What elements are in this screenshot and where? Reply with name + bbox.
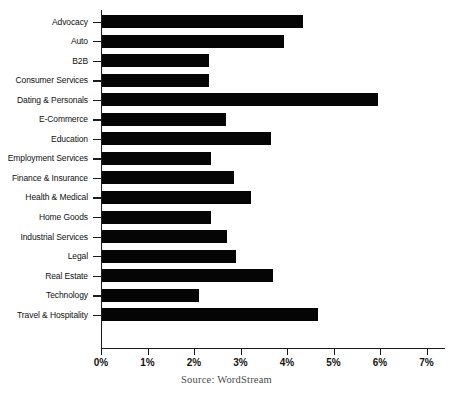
category-label: Consumer Services bbox=[0, 75, 88, 85]
x-axis-tick bbox=[334, 348, 335, 355]
bar bbox=[102, 113, 226, 126]
category-label: Industrial Services bbox=[0, 232, 88, 242]
y-axis-tick bbox=[93, 315, 101, 316]
category-label: Home Goods bbox=[0, 212, 88, 222]
x-axis-tick bbox=[101, 348, 102, 355]
y-axis-tick bbox=[93, 158, 101, 159]
x-axis-tick bbox=[148, 348, 149, 355]
x-axis-line bbox=[101, 348, 445, 349]
category-label: Travel & Hospitality bbox=[0, 310, 88, 320]
category-label: Education bbox=[0, 134, 88, 144]
bar bbox=[102, 171, 234, 184]
category-label: Dating & Personals bbox=[0, 95, 88, 105]
x-axis-tick bbox=[427, 348, 428, 355]
bar bbox=[102, 191, 251, 204]
x-axis-tick-label: 4% bbox=[267, 357, 307, 368]
bar bbox=[102, 132, 271, 145]
bar-chart: AdvocacyAutoB2BConsumer ServicesDating &… bbox=[0, 0, 453, 399]
category-label: B2B bbox=[0, 56, 88, 66]
category-label: Health & Medical bbox=[0, 192, 88, 202]
x-axis-tick bbox=[194, 348, 195, 355]
x-axis-tick bbox=[380, 348, 381, 355]
bar bbox=[102, 269, 273, 282]
bar bbox=[102, 35, 284, 48]
x-axis-tick-label: 2% bbox=[174, 357, 214, 368]
y-axis-tick bbox=[93, 139, 101, 140]
x-axis-tick-label: 1% bbox=[128, 357, 168, 368]
y-axis-tick bbox=[93, 80, 101, 81]
bar bbox=[102, 54, 209, 67]
category-label: Advocacy bbox=[0, 17, 88, 27]
y-axis-tick bbox=[93, 237, 101, 238]
bar bbox=[102, 152, 211, 165]
category-label: Legal bbox=[0, 251, 88, 261]
category-label: E-Commerce bbox=[0, 114, 88, 124]
category-label: Auto bbox=[0, 36, 88, 46]
y-axis-tick bbox=[93, 100, 101, 101]
y-axis-tick bbox=[93, 217, 101, 218]
category-label: Real Estate bbox=[0, 271, 88, 281]
category-label: Technology bbox=[0, 290, 88, 300]
y-axis-tick bbox=[93, 197, 101, 198]
bar bbox=[102, 250, 236, 263]
bar bbox=[102, 74, 209, 87]
y-axis-tick bbox=[93, 256, 101, 257]
y-axis-tick bbox=[93, 295, 101, 296]
category-label: Employment Services bbox=[0, 153, 88, 163]
y-axis-tick bbox=[93, 276, 101, 277]
x-axis-tick-label: 7% bbox=[407, 357, 447, 368]
source-note: Source: WordStream bbox=[0, 374, 453, 385]
bar bbox=[102, 230, 227, 243]
y-axis-tick bbox=[93, 61, 101, 62]
x-axis-tick-label: 3% bbox=[221, 357, 261, 368]
bar bbox=[102, 308, 318, 321]
y-axis-tick bbox=[93, 22, 101, 23]
y-axis-tick bbox=[93, 41, 101, 42]
x-axis-tick bbox=[241, 348, 242, 355]
category-label: Finance & Insurance bbox=[0, 173, 88, 183]
y-axis-tick bbox=[93, 119, 101, 120]
bar bbox=[102, 211, 211, 224]
x-axis-tick-label: 0% bbox=[81, 357, 121, 368]
y-axis-tick bbox=[93, 178, 101, 179]
x-axis-tick-label: 5% bbox=[314, 357, 354, 368]
x-axis-tick-label: 6% bbox=[360, 357, 400, 368]
bar bbox=[102, 15, 303, 28]
bar bbox=[102, 289, 199, 302]
bar bbox=[102, 93, 378, 106]
x-axis-tick bbox=[287, 348, 288, 355]
